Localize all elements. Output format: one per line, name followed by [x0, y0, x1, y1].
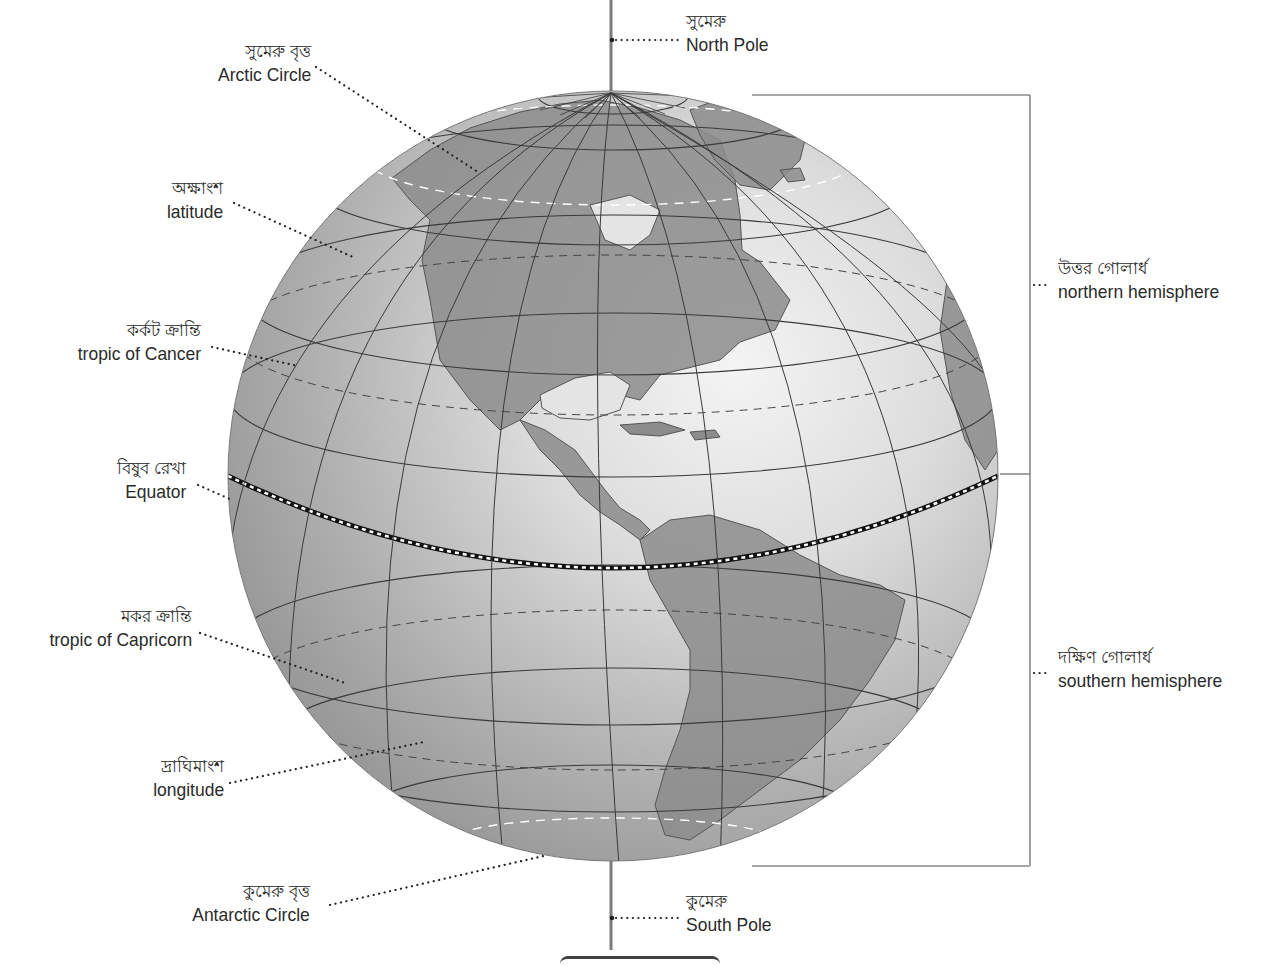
label-longitude: দ্রাঘিমাংশ longitude — [147, 755, 224, 801]
label-antarctic-circle-en: Antarctic Circle — [192, 903, 310, 926]
label-northern-hemisphere-bn: উত্তর গোলার্ধ — [1058, 257, 1233, 280]
label-antarctic-circle: কুমেরু বৃত্ত Antarctic Circle — [182, 880, 310, 926]
label-arctic-circle-en: Arctic Circle — [218, 63, 311, 86]
label-equator-en: Equator — [122, 480, 186, 503]
globe-diagram: সুমেরু North Pole সুমেরু বৃত্ত Arctic Ci… — [0, 0, 1262, 966]
label-equator-bn: বিষুব রেখা — [117, 457, 186, 480]
label-tropic-of-cancer-en: tropic of Cancer — [78, 342, 201, 365]
label-tropic-of-capricorn: মকর ক্রান্তি tropic of Capricorn — [37, 605, 192, 651]
label-southern-hemisphere: দক্ষিণ গোলার্ধ southern hemisphere — [1058, 646, 1237, 692]
globe-svg — [0, 0, 1262, 966]
label-north-pole-bn: সুমেরু — [686, 10, 776, 33]
label-northern-hemisphere-en: northern hemisphere — [1058, 280, 1219, 303]
label-south-pole-bn: কুমেরু — [686, 890, 779, 913]
label-arctic-circle: সুমেরু বৃত্ত Arctic Circle — [210, 40, 311, 86]
label-south-pole: কুমেরু South Pole — [686, 890, 779, 936]
label-latitude-bn: অক্ষাংশ — [162, 177, 223, 200]
label-arctic-circle-bn: সুমেরু বৃত্ত — [210, 40, 311, 63]
label-north-pole-en: North Pole — [686, 33, 769, 56]
label-longitude-en: longitude — [153, 778, 224, 801]
label-antarctic-circle-bn: কুমেরু বৃত্ত — [182, 880, 310, 903]
label-equator: বিষুব রেখা Equator — [117, 457, 186, 503]
label-southern-hemisphere-bn: দক্ষিণ গোলার্ধ — [1058, 646, 1237, 669]
label-longitude-bn: দ্রাঘিমাংশ — [147, 755, 224, 778]
label-tropic-of-cancer-bn: কর্কট ক্রান্তি — [67, 319, 201, 342]
label-tropic-of-cancer: কর্কট ক্রান্তি tropic of Cancer — [67, 319, 201, 365]
label-tropic-of-capricorn-bn: মকর ক্রান্তি — [37, 605, 192, 628]
label-latitude-en: latitude — [167, 200, 223, 223]
label-southern-hemisphere-en: southern hemisphere — [1058, 669, 1222, 692]
label-tropic-of-capricorn-en: tropic of Capricorn — [49, 628, 192, 651]
label-south-pole-en: South Pole — [686, 913, 772, 936]
label-latitude: অক্ষাংশ latitude — [162, 177, 223, 223]
label-northern-hemisphere: উত্তর গোলার্ধ northern hemisphere — [1058, 257, 1233, 303]
label-north-pole: সুমেরু North Pole — [686, 10, 776, 56]
cropped-caption — [560, 950, 720, 966]
globe — [225, 74, 1012, 880]
